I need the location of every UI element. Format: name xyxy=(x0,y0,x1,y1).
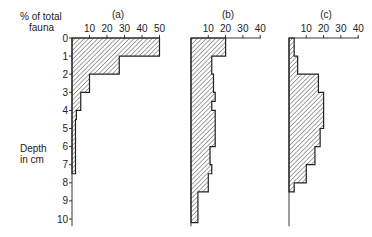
y-tick-label: 5 xyxy=(62,123,68,134)
panel-a: 1020304050(a)012345678910 xyxy=(57,9,166,226)
x-tick-label: 10 xyxy=(301,23,313,34)
x-tick-label: 20 xyxy=(220,23,232,34)
histogram-bars xyxy=(72,38,160,174)
y-tick-label: 9 xyxy=(62,195,68,206)
histogram-bars xyxy=(191,38,226,223)
y-tick-label: 1 xyxy=(62,51,68,62)
x-tick-label: 20 xyxy=(318,23,330,34)
x-tick-label: 40 xyxy=(136,23,148,34)
y-tick-label: 7 xyxy=(62,159,68,170)
y-tick-label: 2 xyxy=(62,69,68,80)
x-tick-label: 50 xyxy=(154,23,166,34)
x-tick-label: 40 xyxy=(353,23,365,34)
x-tick-label: 30 xyxy=(335,23,347,34)
y-tick-label: 3 xyxy=(62,87,68,98)
x-tick-label: 40 xyxy=(255,23,267,34)
x-tick-label: 30 xyxy=(119,23,131,34)
y-tick-label: 8 xyxy=(62,177,68,188)
panel-title: (b) xyxy=(222,9,234,20)
panel-c: 10203040(c) xyxy=(289,9,364,226)
depth-distribution-chart: 1020304050(a)01234567891010203040(b)1020… xyxy=(0,0,372,237)
panel-title: (a) xyxy=(112,9,124,20)
y-tick-label: 6 xyxy=(62,141,68,152)
x-tick-label: 10 xyxy=(203,23,215,34)
panel-title: (c) xyxy=(320,9,332,20)
x-tick-label: 30 xyxy=(237,23,249,34)
x-tick-label: 10 xyxy=(84,23,96,34)
histogram-bars xyxy=(289,38,324,192)
y-tick-label: 10 xyxy=(57,214,69,225)
panel-b: 10203040(b) xyxy=(191,9,266,226)
y-tick-label: 4 xyxy=(62,105,68,116)
y-tick-label: 0 xyxy=(62,33,68,44)
x-tick-label: 20 xyxy=(101,23,113,34)
